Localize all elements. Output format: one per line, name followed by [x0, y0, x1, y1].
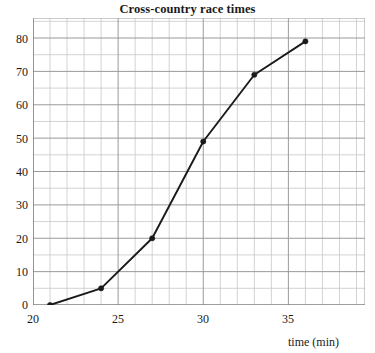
x-axis-label: time (min): [288, 335, 339, 350]
x-tick-label-20: 20: [18, 312, 48, 327]
plot-svg: [33, 18, 365, 305]
y-tick-label-70: 70: [2, 65, 28, 80]
y-tick-label-40: 40: [2, 165, 28, 180]
y-tick-label-20: 20: [2, 232, 28, 247]
plot-area: [33, 18, 365, 305]
y-tick-label-0: 0: [2, 298, 28, 313]
x-tick-label-25: 25: [103, 312, 133, 327]
x-tick-label-35: 35: [273, 312, 303, 327]
y-tick-label-10: 10: [2, 265, 28, 280]
y-tick-label-50: 50: [2, 132, 28, 147]
plot-background: [33, 18, 365, 305]
x-tick-label-30: 30: [188, 312, 218, 327]
y-tick-label-80: 80: [2, 32, 28, 47]
y-tick-label-60: 60: [2, 98, 28, 113]
y-tick-label-30: 30: [2, 198, 28, 213]
chart-title: Cross-country race times: [0, 2, 375, 17]
chart-figure: Cross-country race times 0 10 20 30 40 5…: [0, 0, 375, 353]
